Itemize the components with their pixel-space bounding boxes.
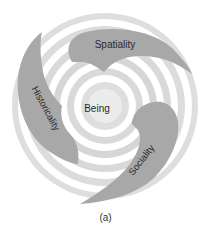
center-label-being: Being <box>84 103 110 114</box>
figure-caption: (a) <box>0 212 211 223</box>
being-diagram: Spatiality Historicality Sociality Being <box>0 0 211 235</box>
spatiality-label: Spatiality <box>95 39 136 50</box>
